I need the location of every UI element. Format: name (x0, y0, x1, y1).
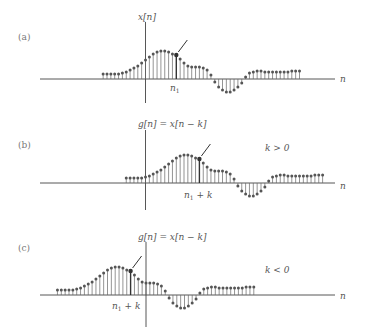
panel-b: (b) g[n] = x[n − k] n1 + k k > 0 n (0, 110, 365, 220)
stem-plot (0, 110, 365, 220)
panel-c: (c) g[n] = x[n − k] n1 + k k < 0 n (0, 220, 365, 334)
stem-plot (0, 220, 365, 334)
panel-a: (a) x[n] n1 n (0, 0, 365, 110)
stem-plot (0, 0, 365, 110)
